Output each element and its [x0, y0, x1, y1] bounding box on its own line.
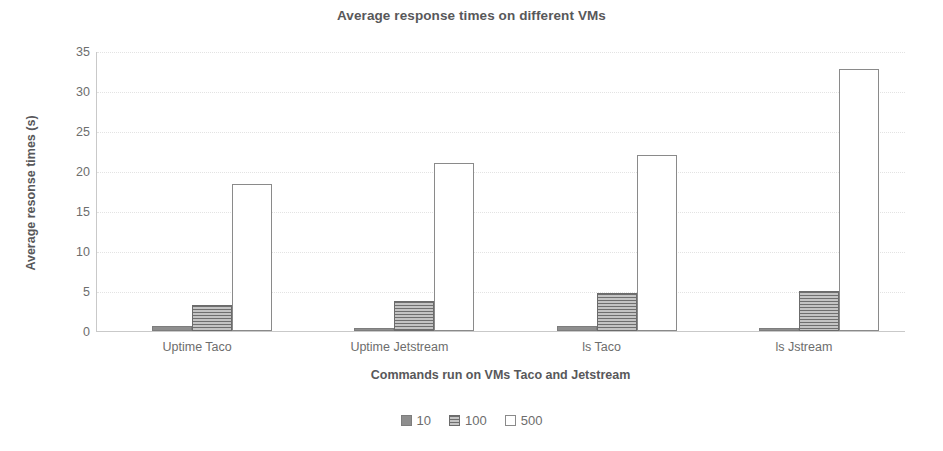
bar-ls-jstream-500[interactable] — [839, 69, 879, 331]
bar-ls-jstream-10[interactable] — [759, 328, 799, 331]
plot-area — [96, 52, 905, 332]
x-axis-title: Commands run on VMs Taco and Jetstream — [96, 368, 905, 382]
bar-uptime-jetstream-500[interactable] — [434, 163, 474, 331]
bar-uptime-jetstream-10[interactable] — [354, 328, 394, 331]
legend-label: 10 — [417, 413, 431, 428]
legend-swatch-icon-500 — [505, 415, 516, 426]
legend-label: 100 — [465, 413, 487, 428]
bar-group — [759, 52, 879, 331]
bar-uptime-taco-10[interactable] — [152, 326, 192, 331]
chart-container: Average response times on different VMs … — [0, 0, 943, 451]
y-tick-label: 35 — [56, 45, 90, 59]
bar-uptime-taco-100[interactable] — [192, 305, 232, 331]
y-tick-label: 15 — [56, 205, 90, 219]
bar-ls-taco-10[interactable] — [557, 326, 597, 331]
bar-ls-taco-100[interactable] — [597, 293, 637, 331]
y-tick-label: 0 — [56, 325, 90, 339]
y-tick-label: 20 — [56, 165, 90, 179]
bar-uptime-jetstream-100[interactable] — [394, 301, 434, 331]
y-tick-label: 5 — [56, 285, 90, 299]
y-tick-label: 30 — [56, 85, 90, 99]
legend-swatch-icon-100 — [449, 415, 460, 426]
y-axis-tick-labels: 05101520253035 — [52, 52, 90, 332]
y-tick-label: 10 — [56, 245, 90, 259]
bar-uptime-taco-500[interactable] — [232, 184, 272, 331]
legend-item-10[interactable]: 10 — [401, 413, 431, 428]
legend-label: 500 — [521, 413, 543, 428]
legend-item-500[interactable]: 500 — [505, 413, 543, 428]
x-tick-label-uptime-taco: Uptime Taco — [96, 340, 298, 354]
chart-legend: 10100500 — [0, 413, 943, 428]
y-axis-title: Average resonse times (s) — [24, 60, 42, 326]
bar-group — [557, 52, 677, 331]
bar-ls-jstream-100[interactable] — [799, 291, 839, 331]
chart-title: Average response times on different VMs — [0, 8, 943, 23]
x-tick-label-ls-jstream: ls Jstream — [703, 340, 905, 354]
y-tick-label: 25 — [56, 125, 90, 139]
bar-group — [354, 52, 474, 331]
bar-ls-taco-500[interactable] — [637, 155, 677, 331]
x-tick-label-ls-taco: ls Taco — [501, 340, 703, 354]
x-axis-tick-labels: Uptime TacoUptime Jetstreamls Tacols Jst… — [96, 340, 905, 362]
legend-item-100[interactable]: 100 — [449, 413, 487, 428]
legend-swatch-icon-10 — [401, 415, 412, 426]
bars-layer — [97, 52, 905, 331]
x-tick-label-uptime-jetstream: Uptime Jetstream — [298, 340, 500, 354]
bar-group — [152, 52, 272, 331]
